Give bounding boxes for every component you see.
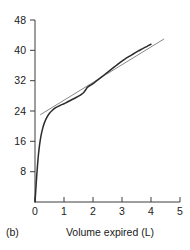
chart-figure: 48 40 32 24 16 8 0 1 2 3 4 5 Volume expi… xyxy=(0,0,190,250)
x-tick-label-1: 1 xyxy=(61,205,67,217)
y-tick-label-24: 24 xyxy=(14,105,26,117)
y-tick-label-8: 8 xyxy=(20,165,26,177)
x-axis-ticks xyxy=(35,197,180,202)
y-tick-label-48: 48 xyxy=(14,14,26,26)
expiratory-curve-path xyxy=(35,44,151,202)
x-tick-label-4: 4 xyxy=(148,205,154,217)
y-axis-ticks xyxy=(30,20,35,172)
x-tick-label-5: 5 xyxy=(177,205,183,217)
x-axis-title: Volume expired (L) xyxy=(66,226,154,238)
y-tick-label-40: 40 xyxy=(14,44,26,56)
x-tick-label-3: 3 xyxy=(119,205,125,217)
x-tick-label-0: 0 xyxy=(32,205,38,217)
y-tick-label-32: 32 xyxy=(14,74,26,86)
y-tick-label-16: 16 xyxy=(14,135,26,147)
panel-label: (b) xyxy=(6,226,19,238)
chart-plot: 48 40 32 24 16 8 0 1 2 3 4 5 Volume expi… xyxy=(0,0,190,250)
x-tick-label-2: 2 xyxy=(90,205,96,217)
